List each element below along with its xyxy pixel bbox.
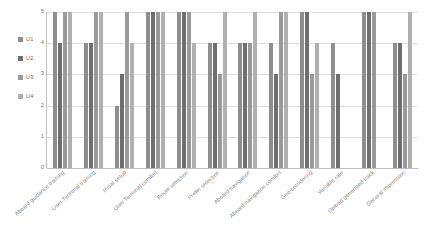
bar[interactable] [284, 12, 288, 168]
bar-group [109, 12, 140, 168]
bar-group [171, 12, 202, 168]
bar[interactable] [238, 43, 242, 168]
bar-group [356, 12, 387, 168]
bar[interactable] [367, 12, 371, 168]
bar[interactable] [269, 43, 273, 168]
bar[interactable] [393, 43, 397, 168]
bar[interactable] [408, 12, 412, 168]
x-axis-label: Initial setup [102, 170, 128, 194]
bar[interactable] [208, 43, 212, 168]
bar[interactable] [218, 74, 222, 168]
bar[interactable] [336, 74, 340, 168]
bar[interactable] [187, 12, 191, 168]
bar[interactable] [274, 74, 278, 168]
legend-swatch-icon [18, 94, 23, 99]
bar[interactable] [177, 12, 181, 168]
bar[interactable] [63, 12, 67, 168]
bar-group [263, 12, 294, 168]
bar[interactable] [99, 12, 103, 168]
x-axis-label: Variable rate [317, 170, 345, 196]
legend-swatch-icon [18, 37, 23, 42]
bar[interactable] [115, 106, 119, 168]
bar[interactable] [362, 12, 366, 168]
x-axis-label: Aboard guidance training [15, 170, 67, 217]
bar[interactable] [253, 12, 257, 168]
bar[interactable] [331, 43, 335, 168]
bar[interactable] [403, 74, 407, 168]
bar-group [47, 12, 78, 168]
bar[interactable] [89, 43, 93, 168]
bar[interactable] [213, 43, 217, 168]
bar-group [233, 12, 264, 168]
bar[interactable] [53, 12, 57, 168]
bar[interactable] [146, 12, 150, 168]
bar-group [294, 12, 325, 168]
bar[interactable] [125, 12, 129, 168]
bar[interactable] [182, 12, 186, 168]
y-axis-ticks: 012345 [33, 12, 44, 168]
x-axis-label: Geo-corridoring [280, 170, 314, 201]
legend-swatch-icon [18, 56, 23, 61]
bar[interactable] [151, 12, 155, 168]
bar[interactable] [398, 43, 402, 168]
y-tick-label: 3 [33, 71, 44, 77]
y-tick-label: 0 [33, 165, 44, 171]
bar[interactable] [120, 74, 124, 168]
bar-group [325, 12, 356, 168]
bar[interactable] [305, 12, 309, 168]
bar[interactable] [300, 12, 304, 168]
plot-area: 012345 [47, 12, 418, 168]
bar-group [387, 12, 418, 168]
bar-group [140, 12, 171, 168]
bar[interactable] [279, 12, 283, 168]
bar[interactable] [372, 12, 376, 168]
bar[interactable] [94, 12, 98, 168]
bar-group [78, 12, 109, 168]
bar[interactable] [248, 43, 252, 168]
bar[interactable] [156, 12, 160, 168]
x-axis-labels: Aboard guidance trainingUser Terminal tr… [47, 168, 418, 241]
y-tick-label: 4 [33, 40, 44, 46]
bar[interactable] [315, 43, 319, 168]
y-tick-label: 1 [33, 134, 44, 140]
bar[interactable] [161, 12, 165, 168]
legend-swatch-icon [18, 75, 23, 80]
bar[interactable] [310, 74, 314, 168]
bar[interactable] [243, 43, 247, 168]
y-tick-label: 5 [33, 9, 44, 15]
bar-groups [47, 12, 418, 168]
bar-group [202, 12, 233, 168]
bar[interactable] [84, 43, 88, 168]
bar[interactable] [192, 43, 196, 168]
x-axis-label: Route selection [156, 170, 190, 201]
bar[interactable] [130, 43, 134, 168]
bar[interactable] [68, 12, 72, 168]
y-tick-label: 2 [33, 103, 44, 109]
bar[interactable] [223, 12, 227, 168]
bar[interactable] [58, 43, 62, 168]
bar-chart: U1 U2 U3 U4 012345 Aboard guidance train… [0, 0, 427, 241]
